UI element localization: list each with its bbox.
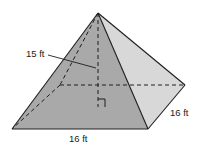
base-side-label: 16 ft	[170, 107, 189, 118]
pyramid-diagram: 15 ft 16 ft 16 ft	[0, 0, 199, 148]
base-front-label: 16 ft	[69, 133, 88, 144]
height-label: 15 ft	[26, 48, 45, 59]
